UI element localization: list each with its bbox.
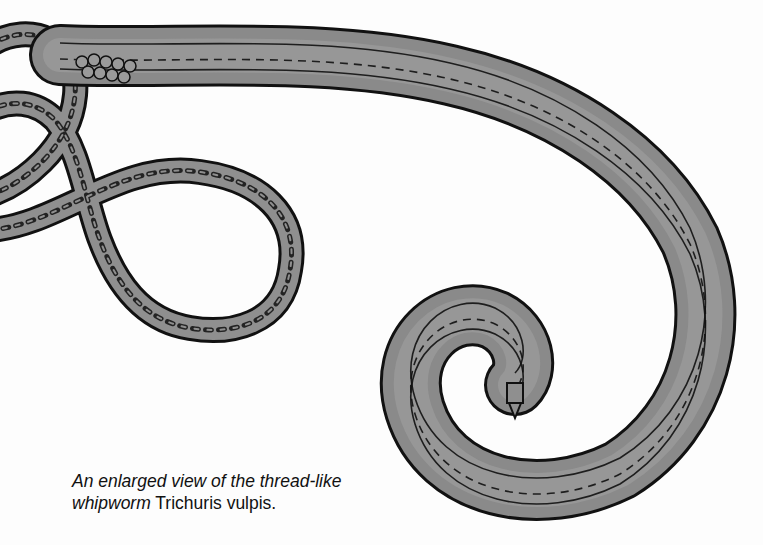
whipworm-illustration xyxy=(0,0,763,545)
caption-line-2: whipworm Trichuris vulpis. xyxy=(72,492,341,514)
caption-scientific-name: Trichuris vulpis. xyxy=(151,493,276,513)
caption-line-1: An enlarged view of the thread-like xyxy=(72,470,341,492)
worm-body xyxy=(60,43,705,504)
illustration-page: An enlarged view of the thread-like whip… xyxy=(0,0,763,545)
figure-caption: An enlarged view of the thread-like whip… xyxy=(72,470,341,514)
caption-common-name: whipworm xyxy=(72,493,151,513)
